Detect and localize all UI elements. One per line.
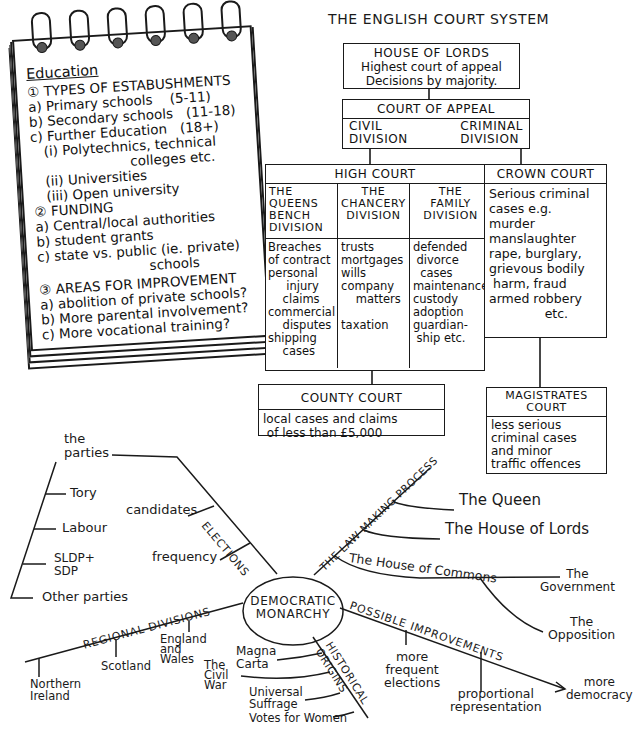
improvement-frequent-elections: more frequent elections — [384, 650, 440, 689]
party-labour: Labour — [62, 521, 107, 535]
history-votes-for-women: Votes for Women — [249, 712, 347, 724]
mind-map-center: DEMOCRATIC MONARCHY — [250, 595, 335, 620]
history-civil-war: The Civil War — [204, 660, 228, 690]
elections-candidates: candidates — [126, 503, 197, 517]
region-england-wales: England and Wales — [160, 634, 207, 664]
party-tory: Tory — [70, 486, 97, 500]
law-queen: The Queen — [459, 493, 541, 509]
history-universal-suffrage: Universal Suffrage — [249, 686, 303, 710]
improvement-result: more democracy — [566, 676, 633, 701]
party-sldp-sdp: SLDP+ SDP — [54, 552, 95, 577]
region-scotland: Scotland — [101, 660, 151, 672]
region-northern-ireland: Northern Ireland — [30, 678, 81, 702]
parties-label: the parties — [64, 432, 109, 459]
elections-frequency: frequency — [152, 550, 217, 564]
law-government: The Government — [540, 568, 615, 593]
improvement-proportional-representation: proportional representation — [450, 687, 542, 713]
party-other: Other parties — [42, 590, 128, 604]
law-opposition: The Opposition — [548, 615, 615, 641]
history-magna-carta: Magna Carta — [236, 645, 276, 670]
law-house-of-lords: The House of Lords — [445, 522, 589, 538]
